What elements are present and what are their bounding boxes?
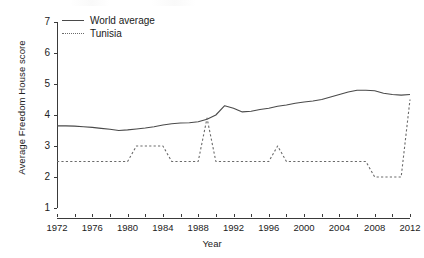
x-tick-mark (269, 214, 270, 217)
x-tick-mark (216, 214, 217, 217)
x-tick-mark (339, 214, 340, 217)
freedom-house-score-chart: Average Freedom House score Year 1234567… (0, 0, 424, 258)
x-tick-mark (128, 214, 129, 217)
x-axis-title: Year (0, 238, 424, 249)
x-tick-mark (322, 214, 323, 217)
x-tick-label: 1988 (178, 222, 218, 233)
x-tick-mark (251, 214, 252, 217)
x-tick-mark (57, 214, 58, 217)
series-line-world-average (57, 90, 410, 130)
cropped-title-artifact (70, 0, 250, 6)
x-tick-mark (410, 214, 411, 217)
x-tick-label: 2000 (284, 222, 324, 233)
series-line-tunisia (57, 100, 410, 178)
chart-legend: World average Tunisia (62, 14, 155, 40)
x-tick-mark (198, 214, 199, 217)
x-tick-mark (357, 214, 358, 217)
x-tick-mark (181, 214, 182, 217)
x-tick-mark (286, 214, 287, 217)
plot-area: 1234567 19721976198019841988199219962000… (45, 18, 415, 208)
x-tick-mark (392, 214, 393, 217)
x-tick-label: 1984 (143, 222, 183, 233)
x-axis-line (57, 218, 410, 219)
x-tick-label: 1972 (37, 222, 77, 233)
legend-label: Tunisia (90, 28, 122, 39)
x-tick-label: 1980 (108, 222, 148, 233)
x-tick-mark (92, 214, 93, 217)
x-tick-label: 2008 (355, 222, 395, 233)
x-tick-mark (75, 214, 76, 217)
x-tick-mark (145, 214, 146, 217)
x-tick-mark (375, 214, 376, 217)
y-axis-title: Average Freedom House score (16, 18, 27, 198)
x-tick-label: 1976 (72, 222, 112, 233)
legend-key-solid-line-icon (62, 20, 84, 21)
x-tick-label: 2012 (390, 222, 424, 233)
legend-label: World average (90, 15, 155, 26)
x-tick-mark (163, 214, 164, 217)
x-tick-mark (234, 214, 235, 217)
x-tick-label: 1996 (249, 222, 289, 233)
x-tick-label: 1992 (214, 222, 254, 233)
legend-item-tunisia: Tunisia (62, 27, 155, 40)
legend-key-dashed-line-icon (62, 33, 84, 34)
legend-item-world-average: World average (62, 14, 155, 27)
series-lines (45, 18, 415, 208)
y-tick-mark (54, 208, 57, 209)
x-tick-mark (110, 214, 111, 217)
x-tick-label: 2004 (319, 222, 359, 233)
x-tick-mark (304, 214, 305, 217)
